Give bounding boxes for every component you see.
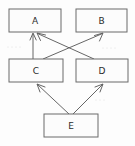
node-d-label: D — [99, 66, 106, 76]
node-a-label: A — [32, 16, 39, 26]
edge-c-to-b-line — [43, 34, 103, 60]
scan-artifact-dot — [110, 47, 111, 48]
edge-e-to-d-line — [73, 85, 103, 115]
scan-artifact-dot — [95, 99, 96, 100]
node-b-label: B — [98, 16, 104, 26]
edge-d-to-a-line — [38, 34, 95, 60]
edge-e-to-d[interactable] — [73, 84, 103, 114]
edge-d-to-a[interactable] — [37, 33, 94, 59]
scan-artifact-dot — [99, 99, 100, 100]
node-a[interactable]: A — [9, 9, 61, 32]
scan-artifact-dot — [11, 46, 12, 47]
edge-e-to-c[interactable] — [37, 84, 69, 114]
node-d[interactable]: D — [76, 59, 128, 82]
edge-c-to-a[interactable] — [30, 33, 36, 59]
scan-artifact-dot — [114, 47, 115, 48]
scan-artifact-dot — [15, 46, 16, 47]
node-e[interactable]: E — [44, 114, 98, 137]
edge-e-to-c-line — [38, 85, 70, 115]
node-c[interactable]: C — [9, 59, 63, 82]
scan-artifact-dot — [103, 99, 104, 100]
diagram-svg: A B C D E — [0, 0, 135, 146]
node-b[interactable]: B — [76, 9, 127, 32]
diagram-canvas: A B C D E — [0, 0, 135, 146]
edge-c-to-b[interactable] — [43, 33, 103, 59]
scan-artifact-dot — [7, 46, 8, 47]
scan-artifact-dot — [102, 47, 103, 48]
node-c-label: C — [33, 66, 39, 76]
scan-artifact-dot — [19, 46, 20, 47]
scan-artifact-dot — [106, 47, 107, 48]
node-group: A B C D E — [9, 9, 128, 137]
node-e-label: E — [68, 121, 74, 131]
